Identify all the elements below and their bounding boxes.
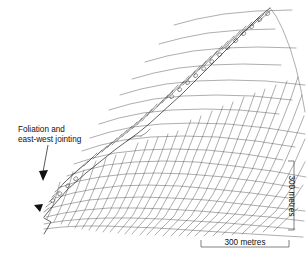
joint-line-family-shallow	[44, 10, 306, 237]
geological-cross-section-figure: Foliation and east-west jointing 300 met…	[0, 0, 307, 260]
joint-line-family-steep	[47, 77, 305, 236]
foliation-loop-ornaments	[51, 12, 270, 203]
horizontal-scale-label: 300 metres	[225, 238, 266, 247]
annotation-label-line1: Foliation and	[18, 125, 65, 134]
cross-section-drawing: Foliation and east-west jointing 300 met…	[0, 0, 307, 260]
outer-boundary-right	[270, 8, 305, 112]
annotation-leader	[34, 145, 48, 212]
annotation-arrowhead-upper	[39, 170, 48, 181]
foliation-boundary-surface	[44, 8, 270, 234]
annotation-arrowhead-lower	[34, 204, 43, 212]
vertical-scale-label: 300 metres	[287, 176, 296, 217]
horizontal-scale-bar: 300 metres	[201, 238, 289, 247]
annotation-label-line2: east-west jointing	[18, 135, 82, 144]
